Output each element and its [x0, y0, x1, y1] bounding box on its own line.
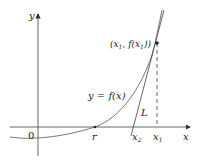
y-axis-label: y	[28, 10, 35, 21]
tangent-label: L	[140, 107, 148, 118]
tangent-point	[155, 41, 159, 45]
x-axis-label: x	[183, 131, 189, 142]
curve-label: y = f(x)	[87, 90, 126, 101]
function-curve	[10, 10, 162, 138]
x1-label: x1	[153, 131, 162, 143]
x2-label: x2	[132, 131, 142, 143]
root-label: r	[92, 131, 98, 142]
root-point	[94, 126, 97, 129]
origin-label: 0	[28, 130, 34, 141]
newton-method-diagram: y 0 x y = f(x) L (x1, f(x1)) r x2 x1	[0, 0, 200, 165]
point-label: (x1, f(x1))	[110, 39, 151, 50]
